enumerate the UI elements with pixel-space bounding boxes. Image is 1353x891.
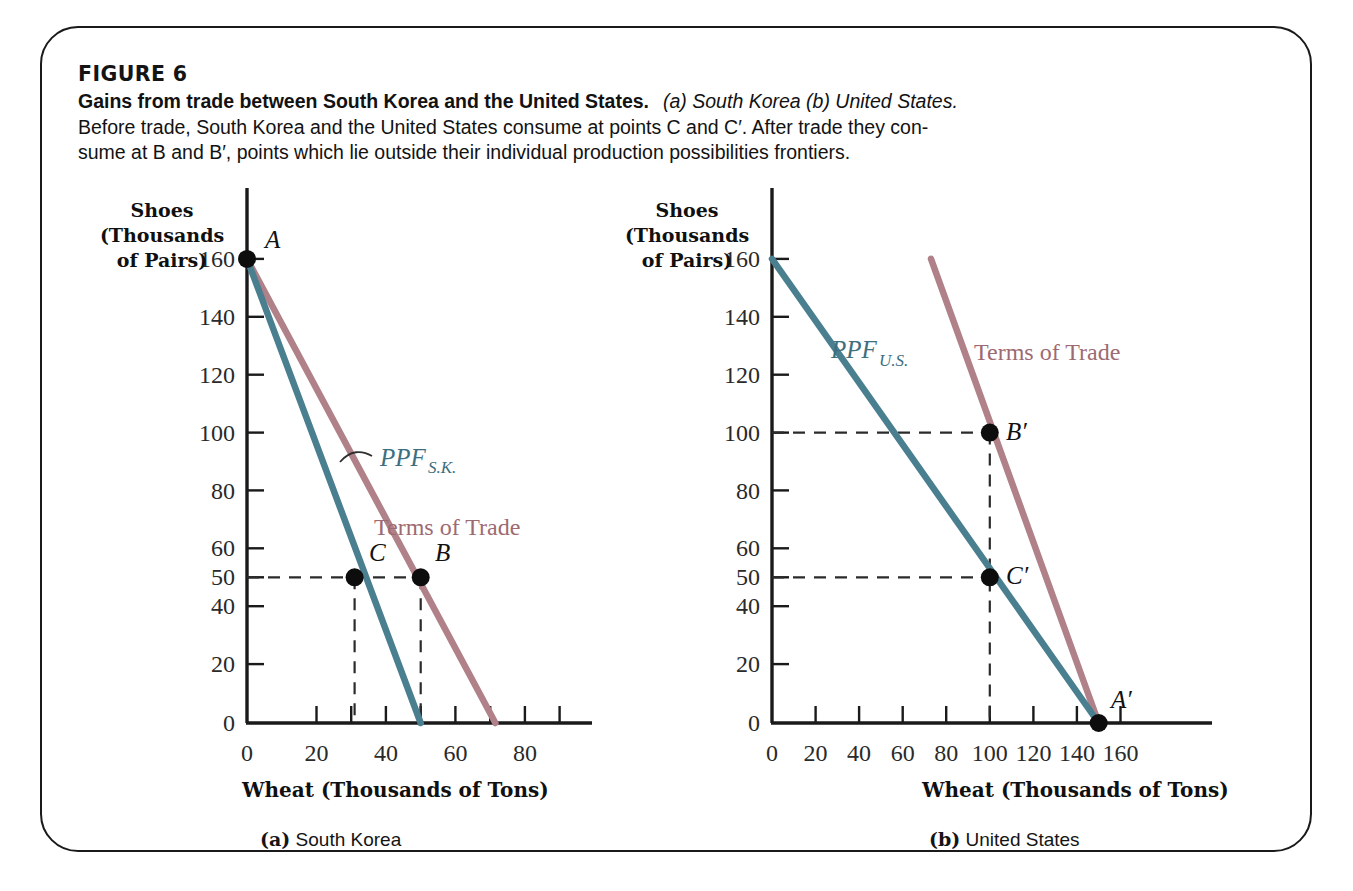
- x-ticks-a: [317, 706, 560, 723]
- figure-body-line-2: sume at B and B′, points which lie outsi…: [78, 140, 1268, 166]
- panel-caption-text-a: South Korea: [290, 829, 401, 850]
- y-tick-label-50-a: 50: [211, 564, 235, 590]
- figure-title-line: Gains from trade between South Korea and…: [78, 89, 1268, 115]
- x-tick-label-40-b: 40: [847, 740, 871, 766]
- x-tick-label-0-b: 0: [766, 740, 778, 766]
- data-point-label-C: C: [369, 539, 386, 566]
- y-axis-title-line-2-b: (Thousands: [607, 223, 767, 248]
- x-tick-label-80-b: 80: [934, 740, 958, 766]
- x-tick-labels-b: 0 20 40 60 80 100 120 140 160: [766, 740, 1139, 766]
- y-axis-title-a: Shoes (Thousands of Pairs): [82, 198, 242, 273]
- y-axis-title-line-1-b: Shoes: [607, 198, 767, 223]
- y-tick-label-40-a: 40: [211, 593, 235, 619]
- y-tick-label-140-a: 140: [199, 304, 235, 330]
- y-tick-labels-a: 160 140 120 100 80 60 50 40 20 0: [199, 246, 235, 736]
- figure-body-line-1: Before trade, South Korea and the United…: [78, 115, 1268, 141]
- y-axis-title-b: Shoes (Thousands of Pairs): [607, 198, 767, 273]
- y-tick-labels-b: 160 140 120 100 80 60 50 40 20 0: [724, 246, 760, 736]
- y-tick-label-20-a: 20: [211, 651, 235, 677]
- y-tick-label-80-a: 80: [211, 478, 235, 504]
- y-tick-label-60-b: 60: [736, 535, 760, 561]
- data-point-label-B: B: [435, 539, 450, 566]
- y-axis-title-line-3: of Pairs): [82, 248, 242, 273]
- figure-title: Gains from trade between South Korea and…: [78, 90, 649, 112]
- x-tick-label-160-b: 160: [1103, 740, 1139, 766]
- y-tick-label-100-b: 100: [724, 420, 760, 446]
- x-ticks-b: [816, 706, 1121, 723]
- ppf-us-label: PPF: [830, 336, 878, 363]
- x-axis-title-b: Wheat (Thousands of Tons): [922, 778, 1229, 802]
- x-tick-label-20-a: 20: [305, 740, 329, 766]
- x-tick-label-40-a: 40: [374, 740, 398, 766]
- ppf-us-line: [772, 259, 1099, 723]
- guide-lines-b: [772, 433, 990, 723]
- panel-caption-b: (b) United States: [929, 828, 1080, 851]
- y-axis-title-line-2: (Thousands: [82, 223, 242, 248]
- data-point-label-A-prime: A′: [1109, 686, 1132, 713]
- terms-of-trade-label-a: Terms of Trade: [374, 514, 520, 540]
- figure-caption-block: FIGURE 6 Gains from trade between South …: [78, 62, 1268, 166]
- figure-number: FIGURE 6: [78, 62, 1268, 86]
- x-tick-label-60-b: 60: [891, 740, 915, 766]
- panel-caption-text-b: United States: [960, 829, 1079, 850]
- y-axis-title-line-1: Shoes: [82, 198, 242, 223]
- figure-frame: FIGURE 6 Gains from trade between South …: [40, 26, 1312, 852]
- x-axis-title-a: Wheat (Thousands of Tons): [242, 778, 549, 802]
- x-tick-label-80-a: 80: [513, 740, 537, 766]
- data-point-C-prime: [981, 568, 999, 586]
- terms-of-trade-line-a: [247, 259, 495, 723]
- data-point-label-C-prime: C′: [1006, 562, 1029, 589]
- x-tick-label-100-b: 100: [972, 740, 1008, 766]
- terms-of-trade-label-b: Terms of Trade: [974, 339, 1120, 365]
- y-ticks-a: [247, 259, 264, 664]
- figure-subtitle: (a) South Korea (b) United States.: [663, 90, 958, 112]
- y-tick-label-20-b: 20: [736, 651, 760, 677]
- data-point-label-B-prime: B′: [1006, 418, 1027, 445]
- data-point-B-prime: [981, 424, 999, 442]
- y-axis-title-line-3-b: of Pairs): [607, 248, 767, 273]
- x-tick-label-0-a: 0: [241, 740, 253, 766]
- y-tick-label-120-b: 120: [724, 362, 760, 388]
- terms-of-trade-line-b: [931, 259, 1099, 723]
- panel-caption-letter-b: (b): [929, 828, 960, 850]
- y-tick-label-0-a: 0: [223, 710, 235, 736]
- x-tick-label-120-b: 120: [1015, 740, 1051, 766]
- x-tick-label-60-a: 60: [443, 740, 467, 766]
- y-tick-label-80-b: 80: [736, 478, 760, 504]
- data-point-C: [346, 568, 364, 586]
- ppf-us-label-subscript: U.S.: [879, 351, 908, 370]
- y-tick-label-40-b: 40: [736, 593, 760, 619]
- axes-group-b: [771, 188, 1212, 723]
- chart-panel-south-korea: Shoes (Thousands of Pairs): [72, 178, 672, 838]
- y-tick-label-0-b: 0: [748, 710, 760, 736]
- ppf-sk-line: [247, 259, 421, 723]
- chart-panel-united-states: Shoes (Thousands of Pairs): [602, 178, 1202, 838]
- y-ticks-b: [772, 259, 789, 664]
- ppf-sk-label: PPF: [379, 444, 427, 471]
- y-tick-label-100-a: 100: [199, 420, 235, 446]
- panel-caption-a: (a) South Korea: [260, 828, 401, 851]
- x-tick-label-20-b: 20: [804, 740, 828, 766]
- x-tick-labels-a: 0 20 40 60 80: [241, 740, 537, 766]
- ppf-sk-label-subscript: S.K.: [428, 458, 456, 477]
- data-point-B: [412, 568, 430, 586]
- y-tick-label-120-a: 120: [199, 362, 235, 388]
- y-tick-label-60-a: 60: [211, 535, 235, 561]
- y-tick-label-50-b: 50: [736, 564, 760, 590]
- data-point-label-A: A: [263, 226, 281, 253]
- data-point-A-prime: [1090, 714, 1108, 732]
- y-tick-label-140-b: 140: [724, 304, 760, 330]
- x-tick-label-140-b: 140: [1059, 740, 1095, 766]
- panel-caption-letter-a: (a): [260, 828, 290, 850]
